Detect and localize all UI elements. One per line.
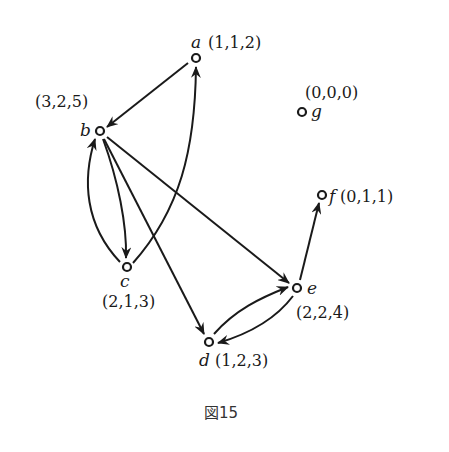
edge-e-to-f [300, 203, 319, 280]
directed-graph-figure: a (1,1,2) b (3,2,5) c (2,1,3) d (1,2,3) … [0, 0, 449, 452]
node-b: b (3,2,5) [35, 92, 104, 140]
node-g-tuple: (0,0,0) [305, 83, 358, 102]
node-e-marker [293, 284, 301, 292]
node-a-marker [192, 54, 200, 62]
node-a-tuple: (1,1,2) [208, 33, 261, 52]
node-d-name: d [199, 350, 210, 370]
node-e-name: e [307, 278, 317, 298]
edge-b-to-c [103, 139, 126, 258]
node-d-tuple: (1,2,3) [215, 351, 268, 370]
node-a-name: a [191, 32, 201, 52]
node-a: a (1,1,2) [191, 32, 261, 62]
node-d-marker [205, 338, 213, 346]
node-f-marker [318, 191, 326, 199]
node-f-tuple: (0,1,1) [340, 187, 393, 206]
node-e: e (2,2,4) [293, 278, 349, 322]
node-e-tuple: (2,2,4) [296, 303, 349, 322]
figure-caption: 図15 [204, 404, 238, 422]
node-f-name: f [327, 186, 338, 206]
edge-a-to-b [107, 63, 188, 127]
node-f: f (0,1,1) [318, 186, 393, 206]
node-g: g (0,0,0) [298, 83, 358, 121]
node-b-name: b [80, 120, 91, 140]
node-g-name: g [311, 101, 322, 121]
node-c: c (2,1,3) [102, 263, 155, 311]
edge-d-to-e [214, 287, 288, 334]
node-g-marker [298, 108, 306, 116]
node-b-tuple: (3,2,5) [35, 92, 88, 111]
node-c-tuple: (2,1,3) [102, 292, 155, 311]
node-c-marker [123, 263, 131, 271]
node-b-marker [96, 127, 104, 135]
node-d: d (1,2,3) [199, 338, 268, 370]
edge-c-to-b [88, 139, 120, 262]
node-c-name: c [120, 271, 130, 291]
